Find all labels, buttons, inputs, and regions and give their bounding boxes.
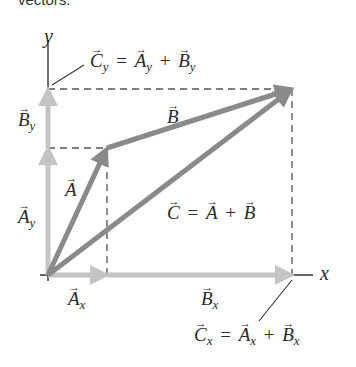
x-axis-label: x xyxy=(320,263,329,283)
label-a: A xyxy=(65,180,77,199)
vector-addition-diagram: vectors. xyxy=(0,0,356,367)
axes xyxy=(40,40,313,281)
cx-leader-line xyxy=(259,280,292,321)
label-bx: Bx xyxy=(201,289,218,312)
label-by: By xyxy=(18,110,35,133)
label-cx-equation: Cx = Ax + Bx xyxy=(194,325,300,348)
vector-a xyxy=(48,152,105,275)
cy-leader-line xyxy=(52,65,84,85)
label-ay: Ay xyxy=(18,207,35,230)
cy-symbol: C xyxy=(90,51,103,70)
label-b: B xyxy=(167,107,179,126)
label-ax: Ax xyxy=(68,289,85,312)
label-cy-equation: Cy = Ay + By xyxy=(90,51,196,74)
vector-b xyxy=(107,90,288,148)
header-text: vectors. xyxy=(18,0,71,8)
y-axis-label: y xyxy=(44,26,53,46)
label-c-equation: C = A + B xyxy=(167,203,255,222)
